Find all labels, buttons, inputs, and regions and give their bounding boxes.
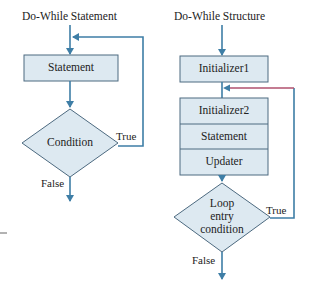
condition-line-1: Loop xyxy=(174,197,270,210)
left-true-label: True xyxy=(116,131,136,142)
right-true-label: True xyxy=(266,205,286,216)
right-true-loop-line xyxy=(270,88,294,218)
left-statement-label: Statement xyxy=(24,62,118,74)
right-stack-row-statement: Statement xyxy=(180,131,268,143)
right-diagram-title: Do-While Structure xyxy=(174,11,265,23)
right-stack-row-updater: Updater xyxy=(180,156,268,168)
right-stack-row-initializer2: Initializer2 xyxy=(180,105,268,117)
right-initializer1-label: Initializer1 xyxy=(180,63,268,75)
left-diagram-title: Do-While Statement xyxy=(22,11,117,23)
left-false-label: False xyxy=(41,178,64,189)
right-loop-return-arrowhead xyxy=(223,85,230,92)
left-condition-label: Condition xyxy=(22,137,118,149)
right-false-label: False xyxy=(192,255,215,266)
condition-line-2: entry xyxy=(174,210,270,223)
right-condition-label: Loop entry condition xyxy=(174,197,270,236)
condition-line-3: condition xyxy=(174,223,270,236)
left-do-while-statement-diagram xyxy=(22,25,143,201)
